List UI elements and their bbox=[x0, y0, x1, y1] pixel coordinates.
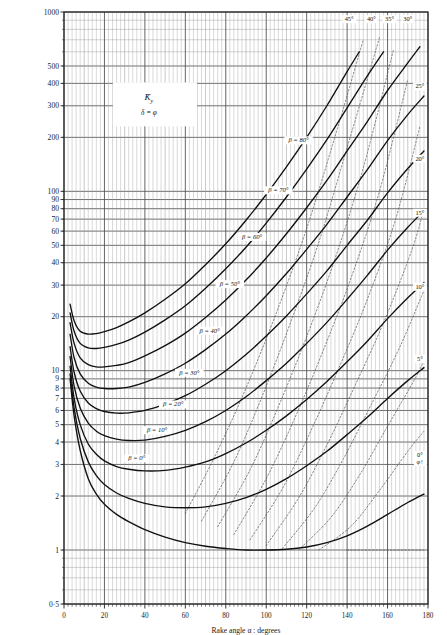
beta-label: β = 40° bbox=[198, 327, 220, 334]
legend-backdrop bbox=[113, 82, 197, 126]
phi-label-group: 45° bbox=[342, 15, 356, 23]
beta-label-group: β = 60° bbox=[238, 233, 266, 241]
beta-label-group: β = 40° bbox=[195, 327, 224, 335]
beta-label-group: β = 0° bbox=[124, 454, 149, 462]
y-tick-label: 7 bbox=[55, 394, 59, 403]
beta-label-group: β = 10° bbox=[143, 426, 172, 434]
phi-label: 25° bbox=[415, 82, 424, 89]
y-tick-label: 8 bbox=[55, 384, 59, 393]
y-tick-label: 3 bbox=[55, 460, 59, 469]
x-tick-label: 120 bbox=[301, 612, 312, 620]
phi-label: 5° bbox=[417, 355, 423, 362]
y-tick-label: 2 bbox=[55, 492, 59, 501]
y-tick-label: 0·5 bbox=[49, 600, 59, 609]
y-tick-label: 30 bbox=[51, 281, 59, 290]
beta-label: β = 10° bbox=[146, 426, 168, 433]
x-tick-label: 80 bbox=[222, 612, 230, 620]
y-tick-label: 5 bbox=[55, 420, 59, 429]
beta-label-group: β = 80° bbox=[284, 136, 313, 144]
phi-label-group: 35° bbox=[383, 15, 397, 23]
y-tick-label: 6 bbox=[55, 406, 59, 415]
x-axis-title: Rake angle α : degrees bbox=[212, 626, 281, 635]
phi-label: 35° bbox=[385, 15, 394, 22]
x-tick-label: 100 bbox=[261, 612, 272, 620]
phi-label-group: 5° bbox=[415, 355, 425, 363]
chart-background bbox=[0, 0, 447, 635]
y-tick-label: 4 bbox=[55, 438, 59, 447]
legend-condition: δ = φ bbox=[141, 109, 157, 117]
y-tick-label: 1 bbox=[55, 546, 59, 555]
beta-label: β = 60° bbox=[241, 233, 263, 240]
y-tick-label: 10 bbox=[51, 366, 59, 375]
x-tick-label: 140 bbox=[342, 612, 353, 620]
y-tick-label: 40 bbox=[51, 258, 59, 267]
y-tick-label: 80 bbox=[51, 204, 59, 213]
beta-label-group: β = 30° bbox=[175, 369, 204, 377]
y-tick-label: 200 bbox=[48, 133, 60, 142]
beta-label: β = 70° bbox=[267, 186, 289, 193]
phi-label: 10° bbox=[415, 283, 424, 290]
beta-label: β = 30° bbox=[178, 369, 200, 376]
beta-label-group: β = 70° bbox=[264, 186, 293, 194]
y-tick-label: 60 bbox=[51, 227, 59, 236]
beta-label: β = 50° bbox=[219, 280, 241, 287]
x-tick-label: 60 bbox=[182, 612, 190, 620]
x-tick-label: 40 bbox=[141, 612, 149, 620]
passive-earth-pressure-chart: 0·51234567891020304050607080901002003004… bbox=[0, 0, 447, 635]
x-tick-label: 0 bbox=[62, 612, 66, 620]
phi-label: 20° bbox=[415, 155, 424, 162]
y-tick-label: 500 bbox=[48, 62, 60, 71]
beta-label: β = 80° bbox=[287, 136, 309, 143]
beta-label-group: β = 50° bbox=[216, 280, 245, 288]
phi-label: 30° bbox=[403, 15, 412, 22]
phi-label: 40° bbox=[367, 15, 376, 22]
y-tick-label: 1000 bbox=[44, 8, 59, 17]
phi-label-group: 30° bbox=[401, 15, 415, 23]
beta-label-group: β = 20° bbox=[159, 400, 188, 408]
y-tick-label: 70 bbox=[51, 215, 59, 224]
phi-axis-note-group: φ↑ bbox=[414, 458, 427, 466]
y-tick-label: 90 bbox=[51, 195, 59, 204]
phi-label: 0° bbox=[417, 451, 423, 458]
y-tick-label: 9 bbox=[55, 374, 59, 383]
x-tick-label: 160 bbox=[382, 612, 393, 620]
phi-label-group: 25° bbox=[413, 82, 427, 90]
y-tick-label: 300 bbox=[48, 101, 60, 110]
y-tick-label: 100 bbox=[48, 187, 60, 196]
phi-label-group: 10° bbox=[413, 283, 427, 291]
beta-label: β = 0° bbox=[127, 454, 145, 461]
x-tick-label: 180 bbox=[423, 612, 434, 620]
phi-axis-note: φ↑ bbox=[416, 458, 423, 465]
chart-container: 0·51234567891020304050607080901002003004… bbox=[0, 0, 447, 635]
phi-label-group: 40° bbox=[364, 15, 378, 23]
beta-label: β = 20° bbox=[162, 400, 184, 407]
y-tick-label: 20 bbox=[51, 312, 59, 321]
phi-label: 15° bbox=[415, 209, 424, 216]
phi-label: 45° bbox=[345, 15, 354, 22]
phi-label-group: 15° bbox=[413, 209, 427, 217]
y-tick-label: 400 bbox=[48, 79, 60, 88]
chart-legend: K̄y δ = φ bbox=[113, 82, 197, 126]
x-tick-label: 20 bbox=[101, 612, 109, 620]
y-tick-label: 50 bbox=[51, 241, 59, 250]
phi-label-group: 20° bbox=[413, 155, 427, 163]
